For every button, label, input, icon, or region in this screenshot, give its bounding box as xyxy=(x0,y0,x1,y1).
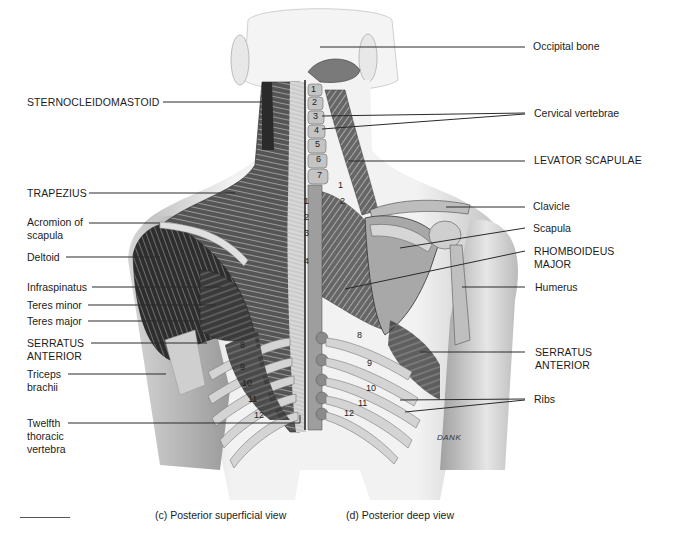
cervical-number: 7 xyxy=(317,170,322,180)
rib-number-left: 9 xyxy=(240,362,245,372)
label-line: ANTERIOR xyxy=(535,359,592,372)
label-line: SERRATUS xyxy=(535,346,592,359)
rib-number-left: 10 xyxy=(242,378,252,388)
label-acromion: Acromion of scapula xyxy=(27,216,83,242)
label-line: Acromion of xyxy=(27,216,83,229)
cervical-number: 2 xyxy=(312,97,317,107)
label-line: brachii xyxy=(27,381,61,394)
label-occipital-bone: Occipital bone xyxy=(533,40,600,53)
rib-number-left: 8 xyxy=(240,340,245,350)
label-line: Twelfth xyxy=(27,417,66,430)
label-humerus: Humerus xyxy=(535,281,578,294)
rib-number-right: 11 xyxy=(358,398,367,408)
rib-number-left: 12 xyxy=(254,410,264,420)
label-triceps-brachii: Triceps brachii xyxy=(27,368,61,394)
label-clavicle: Clavicle xyxy=(533,200,570,213)
label-line: vertebra xyxy=(27,443,66,456)
label-line: ANTERIOR xyxy=(27,350,84,363)
thoracic-deep-number: 2 xyxy=(340,196,345,206)
label-line: scapula xyxy=(27,229,83,242)
label-twelfth-thoracic-vertebra: Twelfth thoracic vertebra xyxy=(27,417,66,456)
rib-number-right: 9 xyxy=(367,358,372,368)
back-muscles-illustration xyxy=(0,0,673,542)
label-trapezius: TRAPEZIUS xyxy=(27,187,87,200)
label-line: thoracic xyxy=(27,430,66,443)
label-ribs: Ribs xyxy=(534,393,555,406)
thoracic-spine-number: 3 xyxy=(304,228,309,238)
label-line: RHOMBOIDEUS xyxy=(534,245,614,258)
label-levator-scapulae: LEVATOR SCAPULAE xyxy=(534,154,642,167)
artist-signature: DANK xyxy=(437,433,461,442)
label-sternocleidomastoid: STERNOCLEIDOMASTOID xyxy=(27,96,159,109)
label-scapula: Scapula xyxy=(533,222,571,235)
thoracic-spine-number: 2 xyxy=(304,212,309,222)
rib-number-right: 10 xyxy=(366,383,376,393)
cervical-number: 5 xyxy=(315,139,320,149)
label-line: SERRATUS xyxy=(27,337,84,350)
caption-deep-view: (d) Posterior deep view xyxy=(346,509,454,521)
label-infraspinatus: Infraspinatus xyxy=(27,281,87,294)
label-serratus-anterior-left: SERRATUS ANTERIOR xyxy=(27,337,84,363)
cervical-number: 4 xyxy=(314,125,319,135)
rib-number-left: 11 xyxy=(248,394,257,404)
label-cervical-vertebrae: Cervical vertebrae xyxy=(534,107,619,120)
caption-superficial-view: (c) Posterior superficial view xyxy=(155,509,286,521)
label-teres-minor: Teres minor xyxy=(27,299,82,312)
label-teres-major: Teres major xyxy=(27,315,82,328)
rib-number-right: 8 xyxy=(357,330,362,340)
cervical-number: 6 xyxy=(316,154,321,164)
cervical-number: 3 xyxy=(313,111,318,121)
cervical-number: 1 xyxy=(311,84,316,94)
rib-number-right: 12 xyxy=(344,408,354,418)
thoracic-spine-number: 1 xyxy=(304,196,309,206)
label-rhomboideus-major: RHOMBOIDEUS MAJOR xyxy=(534,245,614,271)
label-serratus-anterior-right: SERRATUS ANTERIOR xyxy=(535,346,592,372)
anatomy-figure: 1 2 3 4 5 6 7 1 2 1 2 3 4 8 9 10 11 12 8… xyxy=(0,0,673,542)
label-deltoid: Deltoid xyxy=(27,251,60,264)
label-line: Triceps xyxy=(27,368,61,381)
label-line: MAJOR xyxy=(534,258,614,271)
thoracic-spine-number: 4 xyxy=(304,256,309,266)
thoracic-deep-number: 1 xyxy=(338,180,343,190)
footnote-rule xyxy=(20,517,70,518)
